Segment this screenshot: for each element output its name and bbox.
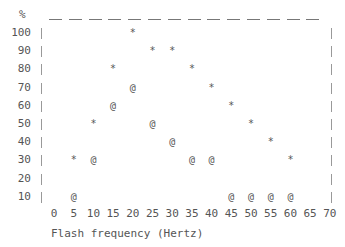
axis-bar-segment: [41, 137, 42, 148]
star-point: *: [130, 27, 136, 39]
axis-bar-segment: [331, 101, 332, 112]
at-point: @: [209, 154, 215, 166]
y-axis-label: %: [19, 8, 26, 22]
y-tick-label: 40: [9, 135, 31, 149]
at-point: @: [130, 82, 136, 94]
y-tick-label: 60: [9, 99, 31, 113]
axis-bar-segment: [41, 64, 42, 75]
star-point: *: [90, 118, 96, 130]
x-tick-label: 35: [185, 208, 198, 220]
at-point: @: [71, 191, 77, 203]
y-tick-label: 20: [9, 172, 31, 186]
axis-bar-segment: [331, 174, 332, 185]
x-tick-label: 0: [51, 208, 58, 220]
axis-bar-segment: [331, 192, 332, 203]
x-tick-label: 45: [225, 208, 238, 220]
dash-segment: [69, 19, 82, 20]
axis-bar-segment: [41, 83, 42, 94]
axis-bar-segment: [331, 83, 332, 94]
dash-segment: [108, 19, 121, 20]
star-point: *: [268, 136, 274, 148]
x-tick-label: 55: [264, 208, 277, 220]
axis-bar-segment: [41, 101, 42, 112]
axis-bar-segment: [331, 64, 332, 75]
dash-segment: [128, 19, 141, 20]
axis-bar-segment: [331, 28, 332, 39]
axis-bar-segment: [331, 155, 332, 166]
y-tick-label: 90: [9, 44, 31, 58]
dash-segment: [267, 19, 280, 20]
x-axis-label: Flash frequency (Hertz): [51, 227, 203, 241]
star-point: *: [248, 118, 254, 130]
axis-bar-segment: [41, 192, 42, 203]
y-tick-label: 50: [9, 117, 31, 131]
x-tick-label: 10: [87, 208, 100, 220]
y-tick-label: 100: [9, 26, 31, 40]
at-point: @: [287, 191, 293, 203]
y-tick-label: 70: [9, 81, 31, 95]
at-point: @: [169, 136, 175, 148]
dash-segment: [188, 19, 201, 20]
x-tick-label: 20: [126, 208, 139, 220]
dash-segment: [89, 19, 102, 20]
axis-bar-segment: [41, 174, 42, 185]
dash-segment: [207, 19, 220, 20]
at-point: @: [110, 100, 116, 112]
x-tick-label: 60: [284, 208, 297, 220]
dash-segment: [168, 19, 181, 20]
x-tick-label: 40: [205, 208, 218, 220]
star-point: *: [110, 63, 116, 75]
star-point: *: [169, 45, 175, 57]
at-point: @: [189, 154, 195, 166]
star-point: *: [287, 154, 293, 166]
x-tick-label: 30: [166, 208, 179, 220]
axis-bar-segment: [331, 137, 332, 148]
dash-segment: [247, 19, 260, 20]
x-tick-label: 5: [70, 208, 77, 220]
dash-segment: [287, 19, 300, 20]
axis-bar-segment: [41, 119, 42, 130]
star-point: *: [209, 82, 215, 94]
axis-bar-segment: [331, 119, 332, 130]
axis-bar-segment: [41, 155, 42, 166]
dash-segment: [148, 19, 161, 20]
at-point: @: [248, 191, 254, 203]
star-point: *: [71, 154, 77, 166]
star-point: *: [189, 63, 195, 75]
at-point: @: [90, 154, 96, 166]
x-tick-label: 50: [244, 208, 257, 220]
star-point: *: [228, 100, 234, 112]
y-tick-label: 10: [9, 190, 31, 204]
dash-segment: [49, 19, 62, 20]
at-point: @: [268, 191, 274, 203]
star-point: *: [149, 45, 155, 57]
x-tick-label: 15: [106, 208, 119, 220]
x-tick-label: 25: [146, 208, 159, 220]
x-tick-label: 70: [323, 208, 336, 220]
axis-bar-segment: [41, 28, 42, 39]
dash-segment: [227, 19, 240, 20]
dash-segment: [306, 19, 319, 20]
at-point: @: [228, 191, 234, 203]
axis-bar-segment: [331, 46, 332, 57]
at-point: @: [149, 118, 155, 130]
x-tick-label: 65: [303, 208, 316, 220]
y-tick-label: 30: [9, 153, 31, 167]
axis-bar-segment: [41, 46, 42, 57]
y-tick-label: 80: [9, 62, 31, 76]
